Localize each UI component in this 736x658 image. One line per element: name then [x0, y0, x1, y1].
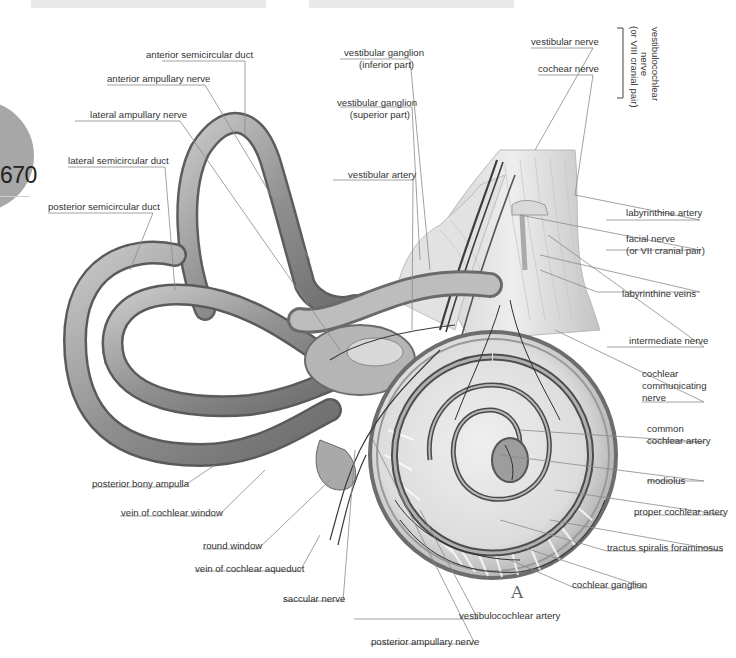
label-lateral-semicircular-duct: lateral semicircular duct: [68, 155, 169, 167]
label-vestibular-ganglion-inferior: vestibular ganglion (inferior part): [344, 47, 414, 71]
label-vestibular-ganglion-superior: vestibular ganglion (superior part): [337, 97, 410, 121]
plate-letter: A: [511, 582, 523, 602]
label-cochear-nerve: cochear nerve: [538, 63, 599, 75]
label-lateral-ampullary-nerve: lateral ampullary nerve: [90, 109, 187, 121]
label-vestibular-artery: vestibular artery: [348, 169, 416, 181]
label-labyrinthine-veins: labyrinthine veins: [622, 288, 696, 300]
label-modiolus: modiolus: [647, 475, 685, 487]
label-intermediate-nerve: intermediate nerve: [629, 335, 708, 347]
label-common-cochlear-artery: common cochlear artery: [647, 423, 710, 447]
label-facial-nerve: facial nerve (or VII cranial pair): [626, 233, 705, 257]
label-saccular-nerve: saccular nerve: [283, 593, 345, 605]
label-round-window: round window: [203, 540, 262, 552]
label-vein-of-cochlear-window: vein of cochlear window: [121, 507, 223, 519]
label-anterior-semicircular-duct: anterior semicircular duct: [146, 49, 253, 61]
label-tractus-spiralis-foraminosus: tractus spiralis foraminosus: [607, 542, 723, 554]
label-vestibular-nerve: vestibular nerve: [531, 36, 599, 48]
label-vein-of-cochlear-aqueduct: vein of cochlear aqueduct: [195, 563, 304, 575]
label-posterior-semicircular-duct: posterior semicircular duct: [48, 201, 160, 213]
label-labyrinthine-artery: labyrinthine artery: [626, 207, 702, 219]
label-vestibulocochlear-nerve: vestibulocochlear nerve (or VIII cranial…: [628, 26, 660, 102]
label-vestibulocochlear-artery: vestibulocochlear artery: [459, 610, 560, 622]
label-cochlear-communicating-nerve: cochlear communicating nerve: [642, 368, 707, 404]
label-posterior-bony-ampulla: posterior bony ampulla: [92, 478, 189, 490]
label-posterior-ampullary-nerve: posterior ampullary nerve: [371, 636, 479, 648]
label-cochlear-ganglion: cochlear ganglion: [572, 579, 647, 591]
nerve-bracket: [617, 28, 623, 98]
label-anterior-ampullary-nerve: anterior ampullary nerve: [107, 73, 210, 85]
label-proper-cochlear-artery: proper cochlear artery: [634, 506, 728, 518]
